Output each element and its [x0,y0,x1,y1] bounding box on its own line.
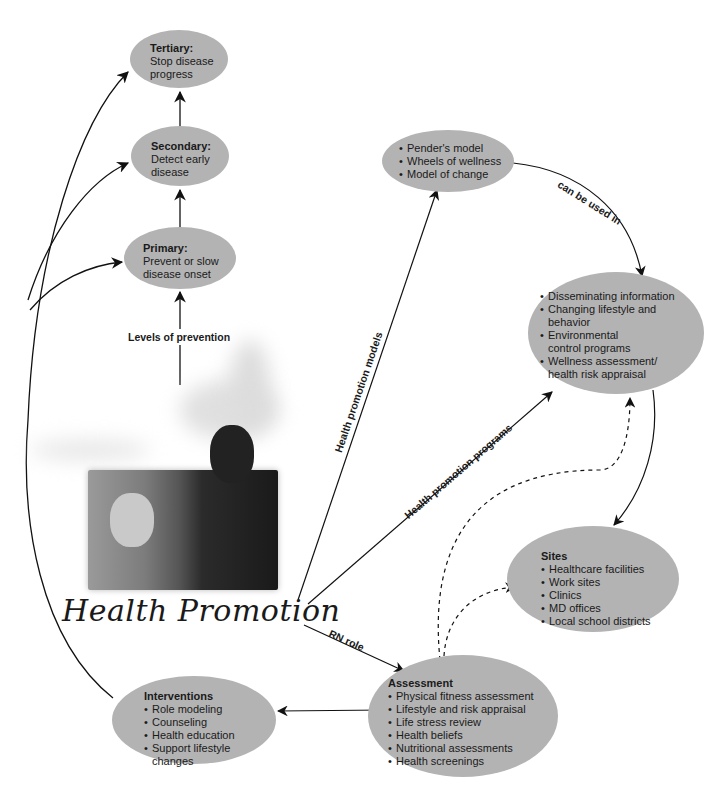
sites-item: Local school districts [541,615,651,628]
models-item: Pender's model [399,142,501,155]
secondary-title: Secondary: [151,140,217,153]
sites-node: Sites Healthcare facilities Work sites C… [507,526,679,632]
tertiary-prevention-node: Tertiary: Stop disease progress [130,30,228,88]
levels-of-prevention-label: Levels of prevention [128,329,230,345]
sites-item: Clinics [541,589,651,602]
assessment-item: Health beliefs [388,729,534,742]
primary-text: Prevent or slow disease onset [143,255,221,281]
interventions-item: Counseling [144,716,235,729]
models-item: Model of change [399,168,501,181]
programs-item: Wellness assessment/ health risk apprais… [540,355,673,381]
assessment-item: Nutritional assessments [388,742,534,755]
programs-list: Disseminating information Changing lifes… [540,290,700,381]
tertiary-text: Stop disease progress [150,55,220,81]
rn-role-label: RN role [327,627,366,653]
assessment-node: Assessment Physical fitness assessment L… [368,655,558,777]
assessment-title: Assessment [388,677,534,690]
interventions-title: Interventions [144,690,235,703]
health-promotion-programs-node: Disseminating information Changing lifes… [528,272,704,394]
health-promotion-programs-label: Health promotion programs [402,421,514,521]
sites-item: MD offices [541,602,651,615]
interventions-item: Role modeling [144,703,235,716]
assessment-item: Life stress review [388,716,534,729]
interventions-item: Support lifestyle changes [144,742,232,768]
sites-item: Healthcare facilities [541,563,651,576]
models-item: Wheels of wellness [399,155,501,168]
models-list: Pender's model Wheels of wellness Model … [399,142,501,181]
secondary-text: Detect early disease [151,153,217,179]
secondary-prevention-node: Secondary: Detect early disease [131,126,229,186]
sites-title: Sites [541,550,651,563]
can-be-used-in-label: can be used in [556,178,624,227]
light-ray-decoration [230,340,270,430]
programs-item: Disseminating information [540,290,700,303]
primary-prevention-node: Primary: Prevent or slow disease onset [124,227,236,289]
photo-person-left [110,493,154,547]
tertiary-title: Tertiary: [150,42,220,55]
interventions-list: Role modeling Counseling Health educatio… [144,703,235,768]
interventions-node: Interventions Role modeling Counseling H… [112,676,276,764]
health-promotion-title: Health Promotion [62,593,340,628]
light-ray-decoration [30,440,150,460]
assessment-item: Lifestyle and risk appraisal [388,703,534,716]
programs-item: Changing lifestyle and behavior [540,303,663,329]
primary-title: Primary: [143,242,221,255]
assessment-item: Physical fitness assessment [388,690,534,703]
sites-item: Work sites [541,576,651,589]
assessment-list: Physical fitness assessment Lifestyle an… [388,690,534,768]
photo-person-right [210,425,254,483]
assessment-item: Health screenings [388,755,534,768]
programs-item: Environmental control programs [540,329,653,355]
health-promotion-models-label: Health promotion models [332,330,385,454]
health-promotion-models-node: Pender's model Wheels of wellness Model … [382,130,514,192]
sites-list: Healthcare facilities Work sites Clinics… [541,563,651,628]
interventions-item: Health education [144,729,235,742]
